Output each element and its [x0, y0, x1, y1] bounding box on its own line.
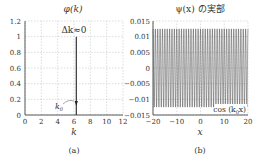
panel-b-y-ticks: −0.015−0.01−0.00500.0050.010.015	[124, 18, 150, 120]
x-tick-label: 8	[88, 118, 92, 126]
panel-b: ψ(x) の実部 −0.015−0.01−0.00500.0050.010.01…	[124, 3, 252, 155]
x-tick-label: 0	[198, 118, 202, 126]
panel-b-xlabel: x	[197, 127, 202, 137]
y-tick-label: 1	[17, 33, 21, 41]
y-tick-label: −0.005	[124, 80, 150, 88]
y-tick-label: −0.01	[129, 96, 150, 104]
panel-a-xlabel: k	[71, 127, 76, 137]
arrow-head-icon	[75, 101, 78, 106]
panel-b-caption: (b)	[194, 146, 205, 155]
panel-a-caption: (a)	[68, 146, 79, 155]
y-tick-label: 0.8	[10, 49, 21, 57]
x-tick-label: 6	[72, 118, 77, 126]
figure: φ(k) 00.20.40.60.811.2 024681012 Δk≈0 k0…	[0, 0, 258, 159]
panel-a-title: φ(k)	[64, 4, 83, 14]
x-tick-label: 10	[102, 118, 111, 126]
x-tick-label: −20	[146, 118, 161, 126]
y-tick-label: 0.4	[10, 80, 22, 88]
x-tick-label: 2	[39, 118, 43, 126]
panel-a: φ(k) 00.20.40.60.811.2 024681012 Δk≈0 k0…	[10, 4, 128, 155]
x-tick-label: 0	[23, 118, 27, 126]
y-tick-label: 0.005	[130, 49, 150, 57]
y-tick-label: 0	[17, 112, 21, 120]
panel-b-x-ticks: −20−1001020	[146, 118, 253, 126]
k0-leader-line	[63, 100, 74, 104]
panel-b-title: ψ(x) の実部	[175, 3, 224, 14]
x-tick-label: 4	[55, 118, 60, 126]
y-tick-label: 0.6	[10, 65, 22, 73]
y-tick-label: 0.015	[130, 18, 150, 26]
k0-annotation: k0	[55, 102, 64, 112]
cos-wave-series	[153, 29, 248, 107]
y-tick-label: 1.2	[10, 18, 21, 26]
delta-k-annotation: Δk≈0	[61, 25, 86, 35]
y-tick-label: 0.01	[134, 33, 150, 41]
x-tick-label: 20	[244, 118, 253, 126]
x-tick-label: 10	[220, 118, 229, 126]
panel-a-y-ticks: 00.20.40.60.811.2	[10, 18, 22, 120]
y-tick-label: 0	[146, 65, 150, 73]
x-tick-label: −10	[169, 118, 184, 126]
y-tick-label: 0.2	[10, 96, 21, 104]
panel-a-x-ticks: 024681012	[23, 118, 128, 126]
legend-label: cos (k0x)	[213, 105, 246, 115]
